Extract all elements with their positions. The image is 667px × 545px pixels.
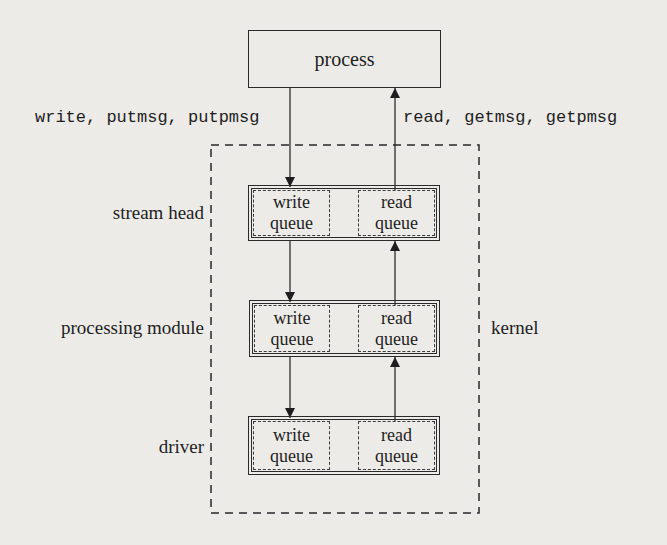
stream-head-read-queue: read queue (358, 190, 435, 236)
process-box: process (248, 30, 441, 88)
queue-label-line1: write (274, 308, 311, 329)
streams-diagram: process write, putmsg, putpmsg read, get… (0, 0, 667, 545)
stream-head-write-queue: write queue (253, 190, 330, 236)
driver-write-queue: write queue (253, 421, 330, 470)
processing-module-read-queue: read queue (358, 305, 435, 352)
layer-label-driver: driver (159, 437, 204, 456)
layer-label-stream-head: stream head (113, 203, 204, 222)
queue-label-line1: read (381, 425, 412, 446)
upcall-label: read, getmsg, getpmsg (403, 109, 617, 126)
queue-label-line1: write (273, 425, 310, 446)
kernel-label: kernel (491, 318, 538, 337)
queue-label-line2: queue (375, 329, 418, 350)
queue-label-line2: queue (271, 329, 314, 350)
downcall-label: write, putmsg, putpmsg (35, 109, 259, 126)
queue-label-line2: queue (270, 213, 313, 234)
queue-label-line2: queue (375, 446, 418, 467)
process-label: process (249, 31, 440, 87)
queue-label-line1: write (273, 192, 310, 213)
queue-label-line1: read (381, 308, 412, 329)
queue-label-line1: read (381, 192, 412, 213)
layer-label-processing-module: processing module (61, 318, 204, 337)
driver-read-queue: read queue (358, 421, 435, 470)
processing-module-write-queue: write queue (254, 305, 330, 352)
queue-label-line2: queue (270, 446, 313, 467)
queue-label-line2: queue (375, 213, 418, 234)
